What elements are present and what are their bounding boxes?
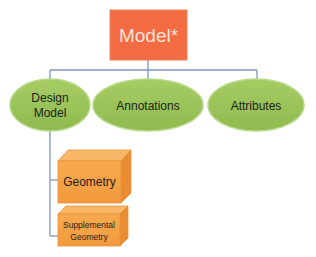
- hierarchy-diagram: Model* Design Model Annotations Attribut…: [0, 0, 316, 257]
- node-attributes-label: Attributes: [231, 99, 282, 113]
- root-node-label: Model*: [119, 25, 179, 46]
- node-annotations[interactable]: Annotations: [93, 79, 203, 131]
- node-supplemental-label-line2: Geometry: [70, 232, 108, 242]
- node-supplemental-label-line1: Supplemental: [63, 220, 115, 230]
- node-design-model-label-line1: Design: [31, 91, 68, 105]
- root-node-model[interactable]: Model*: [110, 10, 187, 60]
- node-supplemental-geometry[interactable]: Supplemental Geometry: [58, 206, 128, 246]
- node-attributes[interactable]: Attributes: [208, 79, 304, 131]
- supplemental-box-top: [58, 206, 128, 214]
- node-design-model-label-line2: Model: [34, 106, 67, 120]
- node-geometry[interactable]: Geometry: [58, 150, 131, 203]
- node-geometry-label: Geometry: [63, 175, 116, 189]
- geometry-box-top: [58, 150, 131, 161]
- node-design-model[interactable]: Design Model: [10, 79, 90, 131]
- node-annotations-label: Annotations: [116, 99, 179, 113]
